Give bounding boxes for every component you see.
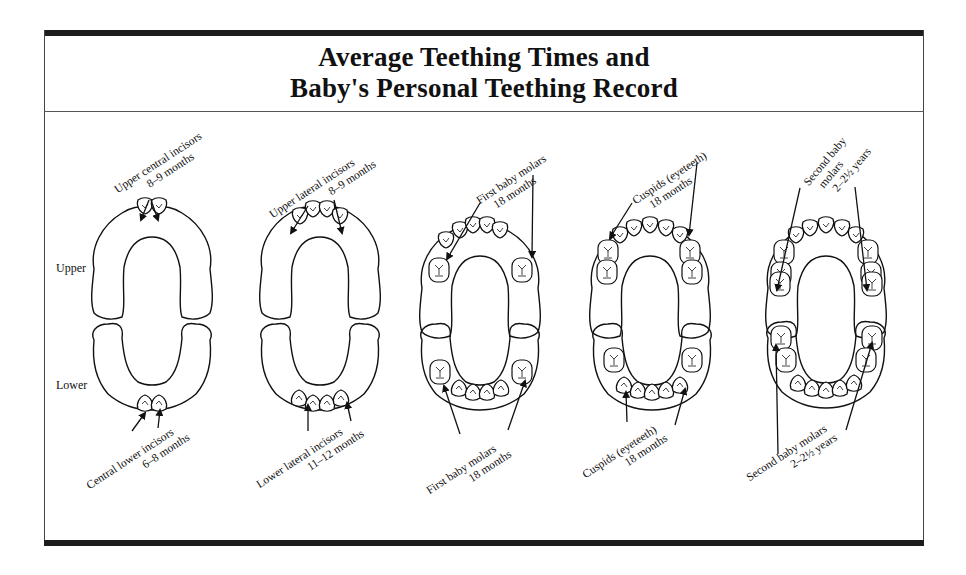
teeth-diagram (0, 0, 966, 575)
stage-1-arches (92, 198, 213, 319)
